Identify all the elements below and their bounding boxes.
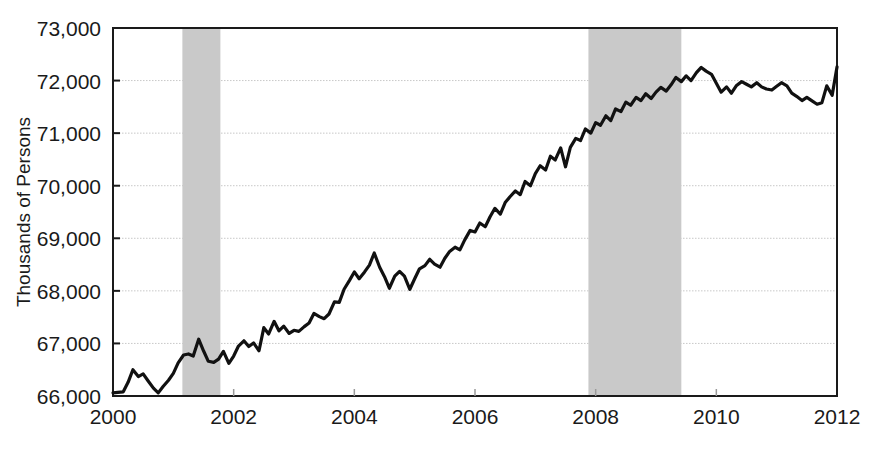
y-tick-label: 69,000: [37, 227, 101, 250]
employment-line: [113, 67, 837, 393]
data-series-group: [113, 67, 837, 393]
x-tick-label: 2010: [693, 405, 740, 428]
x-tick-label: 2008: [572, 405, 619, 428]
gridlines-group: [113, 28, 837, 343]
plot-axes: [113, 28, 837, 396]
y-tick-label: 71,000: [37, 122, 101, 145]
y-tick-label: 67,000: [37, 332, 101, 355]
recession-band: [588, 28, 681, 396]
y-axis-tick-labels: 66,00067,00068,00069,00070,00071,00072,0…: [37, 17, 101, 408]
x-tick-label: 2004: [331, 405, 378, 428]
x-axis-tick-labels: 2000200220042006200820102012: [90, 405, 861, 428]
recession-bands-group: [182, 28, 681, 396]
y-tick-label: 72,000: [37, 70, 101, 93]
y-tick-label: 70,000: [37, 175, 101, 198]
x-tick-label: 2002: [210, 405, 257, 428]
x-tick-label: 2006: [452, 405, 499, 428]
x-tick-label: 2012: [814, 405, 861, 428]
y-axis-title: Thousands of Persons: [13, 117, 34, 307]
y-tick-label: 73,000: [37, 17, 101, 40]
y-tick-label: 68,000: [37, 280, 101, 303]
plot-frame: [113, 28, 837, 396]
x-tick-label: 2000: [90, 405, 137, 428]
recession-band: [182, 28, 220, 396]
employment-line-chart: 66,00067,00068,00069,00070,00071,00072,0…: [0, 0, 874, 461]
chart-canvas: 66,00067,00068,00069,00070,00071,00072,0…: [0, 0, 874, 461]
